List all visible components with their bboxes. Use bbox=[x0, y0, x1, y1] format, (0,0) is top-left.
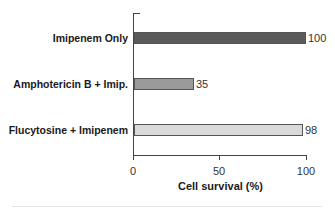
x-tick-0 bbox=[133, 155, 134, 160]
value-label-flucytosine: 98 bbox=[305, 123, 317, 137]
bar-imipenem-only bbox=[134, 32, 306, 44]
y-axis-cap bbox=[133, 13, 140, 14]
separator-line bbox=[12, 206, 322, 207]
value-label-amphotericin: 35 bbox=[196, 77, 208, 91]
x-tick-label-50: 50 bbox=[213, 165, 225, 177]
x-tick-label-100: 100 bbox=[297, 165, 315, 177]
x-axis-title: Cell survival (%) bbox=[178, 180, 263, 192]
x-axis-line bbox=[133, 155, 307, 156]
x-tick-50 bbox=[219, 155, 220, 160]
bar-amphotericin bbox=[134, 78, 194, 90]
category-label-flucytosine: Flucytosine + Imipenem bbox=[9, 123, 128, 137]
value-label-imipenem-only: 100 bbox=[308, 31, 326, 45]
x-tick-100 bbox=[306, 155, 307, 160]
bar-chart: Imipenem Only Amphotericin B + Imip. Flu… bbox=[0, 0, 335, 209]
x-tick-label-0: 0 bbox=[130, 165, 136, 177]
bar-flucytosine bbox=[134, 124, 303, 136]
category-label-imipenem-only: Imipenem Only bbox=[53, 31, 128, 45]
category-label-amphotericin: Amphotericin B + Imip. bbox=[13, 77, 128, 91]
